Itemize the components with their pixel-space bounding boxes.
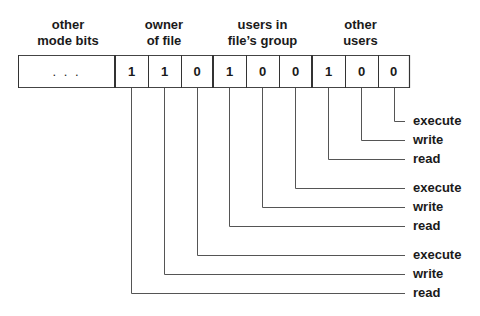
label-others-write: write [413,133,443,147]
label-owner-execute: execute [413,248,461,262]
label-owner-write: write [413,267,443,281]
connector-lines [0,0,480,316]
label-group-write: write [413,200,443,214]
label-group-read: read [413,219,440,233]
label-others-read: read [413,152,440,166]
label-owner-read: read [413,286,440,300]
label-others-execute: execute [413,114,461,128]
label-group-execute: execute [413,181,461,195]
